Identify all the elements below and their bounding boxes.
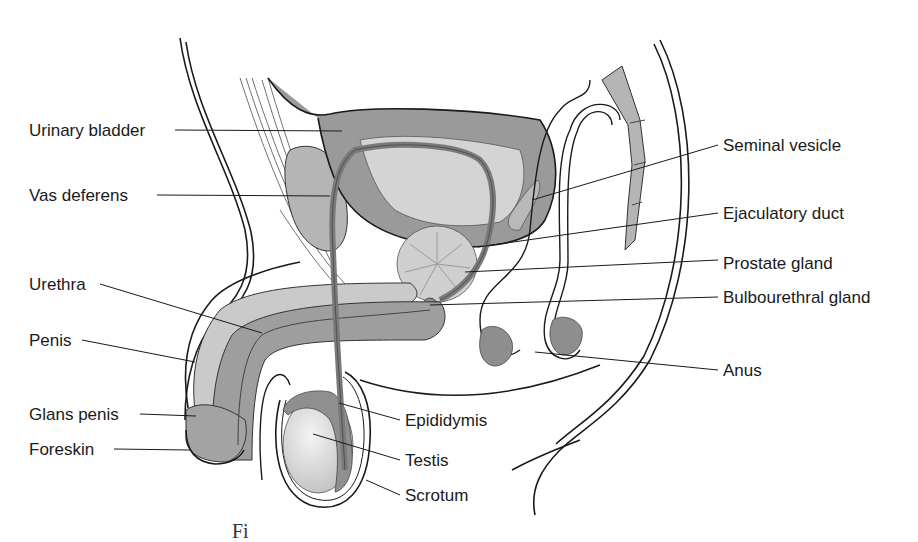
- label-glans-penis: Glans penis: [29, 406, 119, 423]
- label-foreskin: Foreskin: [29, 441, 94, 458]
- label-bulbourethral-gland: Bulbourethral gland: [723, 289, 870, 306]
- label-scrotum: Scrotum: [405, 487, 468, 504]
- label-testis: Testis: [405, 452, 448, 469]
- label-ejaculatory-duct: Ejaculatory duct: [723, 205, 844, 222]
- label-prostate-gland: Prostate gland: [723, 255, 833, 272]
- label-seminal-vesicle: Seminal vesicle: [723, 137, 841, 154]
- label-urethra: Urethra: [29, 276, 86, 293]
- label-anus: Anus: [723, 362, 762, 379]
- figure-caption-fragment: Fi: [232, 520, 249, 542]
- label-vas-deferens: Vas deferens: [29, 187, 128, 204]
- label-epididymis: Epididymis: [405, 412, 487, 429]
- spine-shape: [602, 66, 646, 250]
- label-penis: Penis: [29, 332, 72, 349]
- label-urinary-bladder: Urinary bladder: [29, 122, 145, 139]
